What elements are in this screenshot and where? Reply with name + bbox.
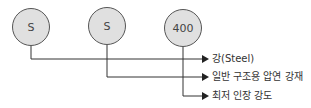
label-rolled-steel: 일반 구조용 압연 강재 <box>212 71 303 83</box>
label-steel: 강(Steel) <box>212 53 254 65</box>
arrow-head-icon <box>202 92 209 100</box>
connector-2 <box>107 45 203 77</box>
label-tensile-strength: 최저 인장 강도 <box>212 90 272 102</box>
connector-3 <box>183 47 203 96</box>
connector-1 <box>31 46 203 59</box>
arrow-head-icon <box>202 55 209 63</box>
arrow-head-icon <box>202 73 209 81</box>
